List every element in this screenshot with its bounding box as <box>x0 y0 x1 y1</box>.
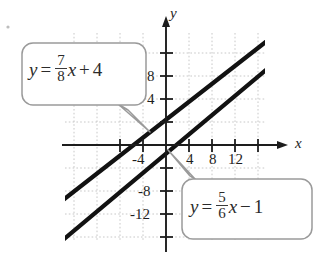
callout-2-lhs: y <box>190 197 198 216</box>
callout-1-lhs: y <box>29 60 37 79</box>
y-tick-label-neg12: -12 <box>130 207 150 222</box>
callout-2-variable: x <box>229 197 237 216</box>
callout-1-equation: y = 7 8 x + 4 <box>29 54 102 86</box>
callout-1-denominator: 8 <box>55 68 67 84</box>
y-axis-arrowhead <box>162 16 170 27</box>
y-tick-label-8: 8 <box>147 69 155 84</box>
callout-1-numerator: 7 <box>55 53 67 68</box>
y-tick-label-neg8: -8 <box>138 184 151 199</box>
x-tick-label-neg4: -4 <box>132 152 145 167</box>
callout-2-numerator: 5 <box>216 190 228 205</box>
x-axis-label: x <box>295 136 302 151</box>
callout-2-equation: y = 5 6 x − 1 <box>190 191 263 223</box>
callout-2-fraction: 5 6 <box>216 190 228 222</box>
graph-figure: y = 7 8 x + 4 y = 5 6 x − 1 y x -4 4 8 1… <box>0 0 319 265</box>
x-tick-label-8: 8 <box>209 152 217 167</box>
coordinate-plane-svg <box>0 0 319 265</box>
callout-1-fraction: 7 8 <box>55 53 67 85</box>
x-tick-label-4: 4 <box>186 152 194 167</box>
callout-2-operator: − <box>237 197 254 216</box>
callout-2-constant: 1 <box>254 197 264 216</box>
callout-1-variable: x <box>68 60 76 79</box>
y-tick-label-4: 4 <box>147 92 155 107</box>
callout-1-constant: 4 <box>93 60 103 79</box>
scan-artifact <box>6 25 9 28</box>
callout-2-denominator: 6 <box>216 205 228 221</box>
callout-1-equals: = <box>37 60 54 79</box>
x-axis-arrowhead <box>277 141 288 149</box>
callout-1-operator: + <box>76 60 93 79</box>
callout-2-equals: = <box>198 197 215 216</box>
y-axis-label: y <box>170 6 177 21</box>
x-tick-label-12: 12 <box>228 152 243 167</box>
